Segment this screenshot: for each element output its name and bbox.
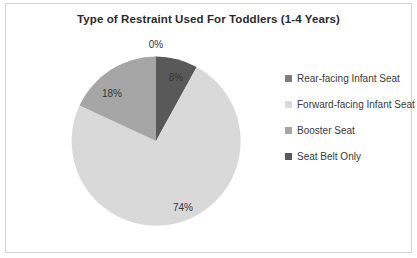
legend-item-forward-facing-infant-seat: Forward-facing Infant Seat (285, 98, 417, 111)
pie-chart: 0% 8% 18% 74% (66, 52, 256, 237)
pie-label-forward-facing-infant-seat: 8% (169, 72, 183, 83)
legend-label: Booster Seat (297, 124, 355, 137)
pie-label-seat-belt-only: 18% (102, 88, 122, 99)
pie-svg (66, 52, 256, 237)
legend-swatch-icon (285, 101, 292, 108)
chart-screenshot: Type of Restraint Used For Toddlers (1-4… (0, 0, 417, 258)
legend-item-rear-facing-infant-seat: Rear-facing Infant Seat (285, 72, 417, 85)
chart-legend: Rear-facing Infant Seat Forward-facing I… (285, 72, 417, 176)
legend-label: Rear-facing Infant Seat (297, 72, 400, 85)
legend-label: Seat Belt Only (297, 150, 361, 163)
chart-title: Type of Restraint Used For Toddlers (1-4… (6, 13, 411, 25)
legend-swatch-icon (285, 75, 292, 82)
legend-label: Forward-facing Infant Seat (297, 98, 415, 111)
legend-swatch-icon (285, 153, 292, 160)
legend-item-booster-seat: Booster Seat (285, 124, 417, 137)
pie-label-rear-facing-infant-seat: 0% (149, 39, 163, 50)
pie-label-booster-seat: 74% (173, 202, 193, 213)
legend-item-seat-belt-only: Seat Belt Only (285, 150, 417, 163)
chart-frame: Type of Restraint Used For Toddlers (1-4… (5, 3, 412, 253)
legend-swatch-icon (285, 127, 292, 134)
